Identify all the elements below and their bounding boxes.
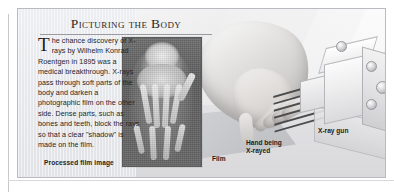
article-title: Picturing the Body xyxy=(38,16,214,32)
article-body-text: he chance discovery of X-rays by Wilhelm… xyxy=(38,36,139,149)
left-margin-rule xyxy=(8,14,9,192)
article-body-column: The chance discovery of X-rays by Wilhel… xyxy=(38,36,142,150)
xray-gun xyxy=(306,37,385,153)
screw-icon xyxy=(366,61,377,72)
page-root: Picturing the Body The chance discovery … xyxy=(0,0,394,192)
label-film: Film xyxy=(212,155,226,163)
screw-icon xyxy=(366,99,377,110)
article-panel: Picturing the Body The chance discovery … xyxy=(17,8,386,178)
title-underline xyxy=(40,34,212,35)
screw-icon xyxy=(376,81,385,94)
bottom-margin-rule xyxy=(8,180,394,181)
drop-cap: T xyxy=(38,36,52,53)
label-xray-gun: X-ray gun xyxy=(318,127,348,135)
label-hand-being-xrayed: Hand being X-rayed xyxy=(246,139,282,156)
article-body: The chance discovery of X-rays by Wilhel… xyxy=(38,36,142,150)
caption-processed-film: Processed film image xyxy=(44,159,114,166)
screw-icon xyxy=(336,41,347,52)
